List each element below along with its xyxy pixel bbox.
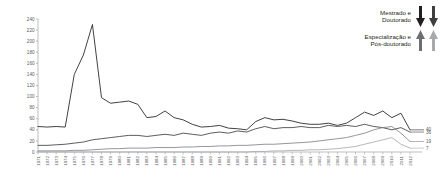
y-tick-label: 60 — [29, 116, 35, 121]
legend-label-line-1: Especialização e — [365, 33, 411, 40]
x-tick-label: 1985 — [163, 155, 168, 165]
legend-item-mestrado-doutorado: Mestrado e Doutorado — [286, 4, 438, 28]
legend-label-especializacao-pos-doutorado: Especialização e Pós-doutorado — [365, 33, 416, 48]
x-tick-label: 1974 — [63, 155, 68, 165]
x-tick-label: 1989 — [199, 155, 204, 165]
y-tick-label: 220 — [27, 28, 35, 33]
arrow-up-icon — [416, 30, 425, 51]
x-tick-label: 1990 — [208, 155, 213, 165]
x-tick-label: 2005 — [344, 155, 349, 165]
series-end-label: 19 — [426, 139, 432, 144]
x-tick-label: 2008 — [371, 155, 376, 165]
x-tick-label: 1976 — [81, 155, 86, 165]
y-tick-label: 160 — [27, 61, 35, 66]
x-tick-label: 1991 — [217, 155, 222, 165]
x-tick-label: 2003 — [326, 155, 331, 165]
x-axis: 1971197219731974197519761977197819791980… — [36, 152, 422, 166]
x-tick-label: 1975 — [72, 155, 77, 165]
chart-root: Mestrado e Doutorado Especialização e Pó… — [0, 0, 442, 183]
legend-arrows-up — [416, 30, 438, 51]
y-tick-label: 80 — [29, 105, 35, 110]
chart-legend: Mestrado e Doutorado Especialização e Pó… — [286, 4, 438, 56]
arrow-down-icon — [429, 6, 438, 27]
x-tick-label: 2004 — [335, 155, 340, 165]
x-tick-label: 2001 — [308, 155, 313, 165]
series-end-label: 36 — [426, 130, 432, 135]
x-tick-label: 1979 — [108, 155, 113, 165]
x-tick-label: 1978 — [99, 155, 104, 165]
series-line-doutorado — [38, 124, 410, 145]
x-tick-label: 1987 — [181, 155, 186, 165]
x-tick-label: 1973 — [54, 155, 59, 165]
legend-item-especializacao-pos-doutorado: Especialização e Pós-doutorado — [286, 28, 438, 52]
y-tick-label: 40 — [29, 127, 35, 132]
arrow-up-icon — [429, 30, 438, 51]
y-tick-label: 20 — [29, 139, 35, 144]
legend-arrows-down — [416, 6, 438, 27]
series-end-label: 7 — [426, 146, 429, 151]
legend-label-line-1: Mestrado e — [380, 9, 411, 16]
x-tick-label: 2007 — [362, 155, 367, 165]
x-tick-label: 1992 — [226, 155, 231, 165]
x-tick-label: 1986 — [172, 155, 177, 165]
y-tick-label: 140 — [27, 72, 35, 77]
x-tick-label: 1995 — [253, 155, 258, 165]
x-tick-label: 1977 — [90, 155, 95, 165]
x-tick-label: 1993 — [235, 155, 240, 165]
x-tick-label: 1980 — [117, 155, 122, 165]
y-tick-label: 240 — [27, 17, 35, 22]
x-tick-label: 1999 — [290, 155, 295, 165]
y-tick-label: 100 — [27, 94, 35, 99]
x-tick-label: 2000 — [299, 155, 304, 165]
arrow-down-icon — [416, 6, 425, 27]
x-tick-label: 1984 — [154, 155, 159, 165]
x-tick-label: 1971 — [36, 155, 41, 165]
y-tick-label: 180 — [27, 50, 35, 55]
x-tick-label: 2009 — [380, 155, 385, 165]
legend-label-line-2: Pós-doutorado — [365, 40, 411, 47]
x-tick-label: 2012 — [408, 155, 413, 165]
series-end-labels: 4036197 — [410, 127, 432, 150]
x-tick-label: 2006 — [353, 155, 358, 165]
x-tick-label: 1972 — [45, 155, 50, 165]
x-tick-label: 1994 — [244, 155, 249, 165]
y-tick-label: 0 — [32, 150, 35, 155]
x-tick-label: 2002 — [317, 155, 322, 165]
x-tick-label: 1988 — [190, 155, 195, 165]
y-tick-label: 200 — [27, 39, 35, 44]
x-tick-label: 2011 — [399, 155, 404, 165]
y-axis: 020406080100120140160180200220240 — [27, 17, 38, 155]
y-tick-label: 120 — [27, 83, 35, 88]
x-tick-label: 2010 — [389, 155, 394, 165]
x-tick-label: 1981 — [126, 155, 131, 165]
x-tick-label: 1982 — [135, 155, 140, 165]
x-tick-label: 1983 — [144, 155, 149, 165]
x-tick-label: 1997 — [272, 155, 277, 165]
x-tick-label: 1998 — [281, 155, 286, 165]
x-tick-label: 1996 — [262, 155, 267, 165]
series-line-especializa-o — [38, 127, 410, 151]
legend-label-mestrado-doutorado: Mestrado e Doutorado — [380, 9, 416, 24]
legend-label-line-2: Doutorado — [380, 16, 411, 23]
